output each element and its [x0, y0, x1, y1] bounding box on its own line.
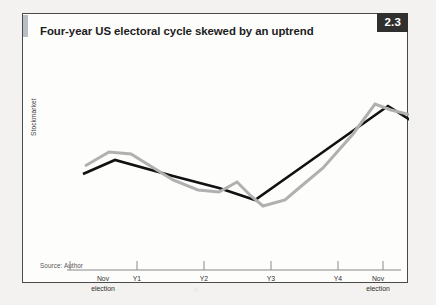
figure-number-badge: 2.3 — [377, 13, 408, 32]
figure-title: Four-year US electoral cycle skewed by a… — [40, 25, 314, 37]
figure-container: Four-year US electoral cycle skewed by a… — [22, 13, 408, 283]
plot-area: Stockmarket Nov electionY1Y2Y3Y4Nov elec… — [23, 48, 409, 284]
series-line-cycle — [85, 104, 409, 206]
chart-svg — [23, 48, 409, 284]
figure-header: Four-year US electoral cycle skewed by a… — [23, 14, 407, 48]
title-accent-bar — [23, 15, 28, 37]
source-note: Source: Author — [40, 262, 83, 269]
